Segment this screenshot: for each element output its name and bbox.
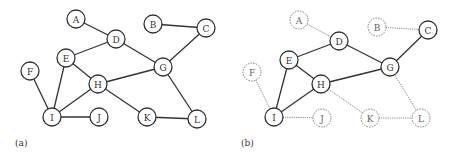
node-label-h: H xyxy=(94,80,102,90)
node-k: K xyxy=(138,108,156,126)
nodes-panel-a: ABCDEFGHIJKL xyxy=(21,10,215,128)
node-g: G xyxy=(154,58,172,76)
node-d: D xyxy=(107,30,125,48)
panel-a-label: (a) xyxy=(15,138,27,148)
node-label-l: L xyxy=(194,115,200,125)
node-c: C xyxy=(197,19,215,37)
node-f: F xyxy=(21,62,39,80)
node-label-e: E xyxy=(286,56,293,66)
node-label-k: K xyxy=(367,114,374,124)
node-a: A xyxy=(290,11,308,29)
node-label-j: J xyxy=(96,113,101,123)
node-c: C xyxy=(419,21,437,39)
node-e: E xyxy=(280,51,298,69)
node-f: F xyxy=(243,63,261,81)
node-i: I xyxy=(43,108,61,126)
node-h: H xyxy=(312,75,330,93)
panel-b-label: (b) xyxy=(241,138,254,148)
node-d: D xyxy=(330,32,348,50)
node-label-c: C xyxy=(203,24,210,34)
node-k: K xyxy=(361,109,379,127)
node-label-k: K xyxy=(144,113,151,123)
node-label-a: A xyxy=(295,16,303,26)
edge-h-g xyxy=(98,67,163,84)
node-label-i: I xyxy=(50,113,54,123)
node-label-d: D xyxy=(335,37,342,47)
node-j: J xyxy=(313,109,331,127)
node-l: L xyxy=(188,110,206,128)
graph-diagram: ABCDEFGHIJKL (a) ABCDEFGHIJKL (b) xyxy=(0,0,457,160)
node-g: G xyxy=(381,58,399,76)
node-b: B xyxy=(144,15,162,33)
node-label-d: D xyxy=(112,35,119,45)
node-label-e: E xyxy=(63,54,70,64)
node-label-c: C xyxy=(425,26,432,36)
edge-h-g xyxy=(321,67,390,84)
node-j: J xyxy=(90,108,108,126)
node-label-b: B xyxy=(150,20,157,30)
node-label-b: B xyxy=(374,23,381,33)
node-label-g: G xyxy=(386,63,393,73)
node-label-h: H xyxy=(317,80,325,90)
node-i: I xyxy=(265,108,283,126)
node-label-f: F xyxy=(249,68,255,78)
node-l: L xyxy=(412,109,430,127)
node-label-j: J xyxy=(319,114,324,124)
node-label-a: A xyxy=(72,15,80,25)
node-label-l: L xyxy=(418,114,424,124)
node-label-i: I xyxy=(272,113,276,123)
node-a: A xyxy=(67,10,85,28)
node-label-g: G xyxy=(159,63,166,73)
node-label-f: F xyxy=(27,67,33,77)
node-h: H xyxy=(89,75,107,93)
panel-b-subgraph-highlight: ABCDEFGHIJKL (b) xyxy=(241,11,437,148)
node-b: B xyxy=(368,18,386,36)
panel-a-full-graph: ABCDEFGHIJKL (a) xyxy=(15,10,215,148)
node-e: E xyxy=(57,49,75,67)
